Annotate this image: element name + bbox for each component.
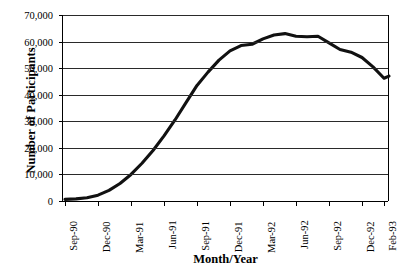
series-layer: [63, 15, 390, 201]
gridline: [63, 174, 388, 175]
gridline: [63, 42, 388, 43]
y-tick-mark: [59, 121, 63, 122]
gridline: [63, 15, 388, 16]
x-tick-label: Mar-91: [134, 206, 145, 237]
gridline: [63, 121, 388, 122]
participants-line-chart: Number of Participants 70,00060,00050,00…: [0, 0, 407, 272]
x-tick-label: Sep-91: [200, 206, 211, 236]
y-tick-label: 30,000: [24, 116, 53, 127]
x-tick-label: Mar-92: [266, 206, 277, 237]
y-tick-label: 70,000: [24, 10, 53, 21]
y-tick-label: 40,000: [24, 89, 53, 100]
y-tick-mark: [59, 95, 63, 96]
y-tick-mark: [59, 201, 63, 202]
x-tick-label: Dec-92: [365, 206, 376, 237]
y-tick-mark: [59, 42, 63, 43]
x-axis-line: [63, 201, 388, 202]
x-tick-label: Sep-92: [332, 206, 343, 236]
plot-area: [62, 15, 389, 201]
x-tick-label: Jun-91: [167, 206, 178, 235]
y-axis-tick-labels: 70,00060,00050,00040,00030,00020,00010,0…: [0, 0, 58, 272]
y-tick-label: 0: [48, 196, 53, 207]
y-tick-label: 10,000: [24, 169, 53, 180]
x-tick-label: Feb-93: [387, 206, 398, 236]
y-tick-mark: [59, 68, 63, 69]
y-tick-mark: [59, 174, 63, 175]
x-axis-title: Month/Year: [62, 252, 389, 267]
x-tick-label: Dec-90: [101, 206, 112, 237]
gridline: [63, 68, 388, 69]
y-tick-label: 60,000: [24, 36, 53, 47]
x-tick-label: Jun-92: [299, 206, 310, 235]
y-tick-label: 20,000: [24, 142, 53, 153]
y-tick-label: 50,000: [24, 63, 53, 74]
x-tick-label: Dec-91: [233, 206, 244, 237]
y-tick-mark: [59, 148, 63, 149]
gridline: [63, 95, 388, 96]
gridline: [63, 148, 388, 149]
x-axis-tick-labels: Sep-90Dec-90Mar-91Jun-91Sep-91Dec-91Mar-…: [62, 206, 389, 252]
x-tick-label: Sep-90: [68, 206, 79, 236]
y-tick-mark: [59, 15, 63, 16]
